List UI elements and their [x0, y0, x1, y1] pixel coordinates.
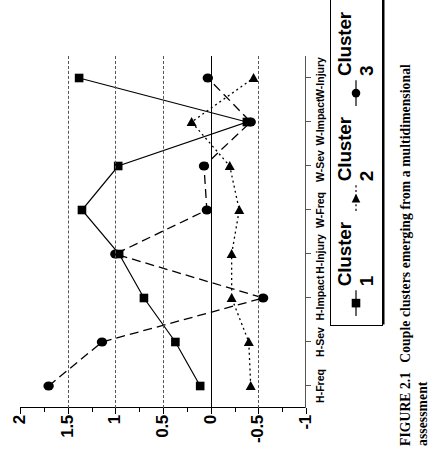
gridline: [115, 56, 116, 408]
category-axis-tick: [306, 297, 311, 298]
value-axis-minor-tick: [187, 408, 188, 412]
zero-baseline: [211, 56, 212, 408]
category-axis-tick: [306, 165, 311, 166]
category-axis-label: W-Sev: [314, 150, 326, 182]
value-axis-tick-label: 0.5: [153, 415, 173, 438]
category-axis-label: W-Impact: [314, 98, 326, 145]
circle-marker: [43, 381, 53, 390]
value-axis-minor-tick: [92, 408, 93, 412]
gridline: [163, 56, 164, 408]
series-3: [43, 73, 268, 390]
category-axis-label: W-Freq: [314, 192, 326, 228]
square-marker: [171, 338, 180, 347]
value-axis-minor-tick: [235, 408, 236, 412]
value-axis-tick: [20, 408, 21, 414]
triangle-marker-icon: [348, 185, 364, 211]
value-axis-minor-tick: [44, 408, 45, 412]
legend-entry-cluster-1[interactable]: Cluster 1: [334, 218, 378, 316]
chart: 21.510.50-0.5-1H-FreqH-SevH-ImpactH-Inju…: [14, 44, 314, 452]
plot-area: 21.510.50-0.5-1H-FreqH-SevH-ImpactH-Inju…: [20, 56, 306, 408]
circle-marker: [97, 337, 107, 346]
gridline: [258, 56, 259, 408]
value-axis-tick-label: -0.5: [248, 415, 268, 443]
triangle-marker: [249, 73, 259, 82]
square-marker: [75, 74, 84, 83]
square-marker: [140, 294, 149, 303]
value-axis-tick-label: 1: [105, 415, 125, 424]
triangle-marker: [246, 381, 256, 390]
value-axis-tick: [306, 408, 307, 414]
value-axis-minor-tick: [139, 408, 140, 412]
plot-inner: 21.510.50-0.5-1H-FreqH-SevH-ImpactH-Inju…: [20, 56, 306, 408]
value-axis-tick-label: 1.5: [58, 415, 78, 438]
legend-entry-cluster-2[interactable]: Cluster 2: [334, 113, 378, 211]
category-axis-tick: [306, 77, 311, 78]
value-axis-tick-label: 0: [201, 415, 221, 424]
circle-marker: [199, 161, 209, 170]
triangle-marker: [227, 293, 237, 302]
triangle-marker: [244, 337, 254, 346]
circle-marker: [258, 293, 268, 302]
category-axis-tick: [306, 341, 311, 342]
square-marker-icon: [348, 290, 364, 316]
triangle-marker: [227, 249, 237, 258]
value-axis-tick: [211, 408, 212, 414]
square-marker: [78, 206, 87, 215]
figure-number: FIGURE 2.1: [398, 372, 413, 446]
category-axis-tick: [306, 385, 311, 386]
category-axis-label: H-Sev: [314, 327, 326, 357]
category-axis-label: H-Injury: [314, 234, 326, 274]
value-axis-tick: [68, 408, 69, 414]
category-axis-label: W-Injury: [314, 57, 326, 99]
value-axis-tick: [163, 408, 164, 414]
value-axis-tick: [115, 408, 116, 414]
legend-label-cluster-3: Cluster 3: [334, 8, 378, 76]
value-axis-tick: [258, 408, 259, 414]
legend: Cluster 1 Cluster 2 Cluster 3: [330, 0, 383, 326]
category-axis-tick: [306, 253, 311, 254]
category-axis-label: H-Freq: [314, 369, 326, 403]
series-line: [49, 78, 264, 386]
legend-label-cluster-2: Cluster 2: [334, 113, 378, 181]
value-axis-tick-label: 2: [10, 415, 30, 424]
square-marker: [196, 382, 205, 391]
circle-marker: [246, 117, 256, 126]
legend-label-cluster-1: Cluster 1: [334, 218, 378, 286]
value-axis-tick-label: -1: [296, 415, 316, 430]
category-axis-tick: [306, 121, 311, 122]
category-axis-label: H-Impact: [314, 276, 326, 321]
category-axis-tick: [306, 209, 311, 210]
triangle-marker: [187, 117, 197, 126]
value-axis-minor-tick: [282, 408, 283, 412]
gridline: [68, 56, 69, 408]
legend-entry-cluster-3[interactable]: Cluster 3: [334, 8, 378, 106]
circle-marker-icon: [348, 80, 364, 106]
triangle-marker: [234, 205, 244, 214]
figure-caption: FIGURE 2.1Couple clusters emerging from …: [398, 60, 432, 446]
